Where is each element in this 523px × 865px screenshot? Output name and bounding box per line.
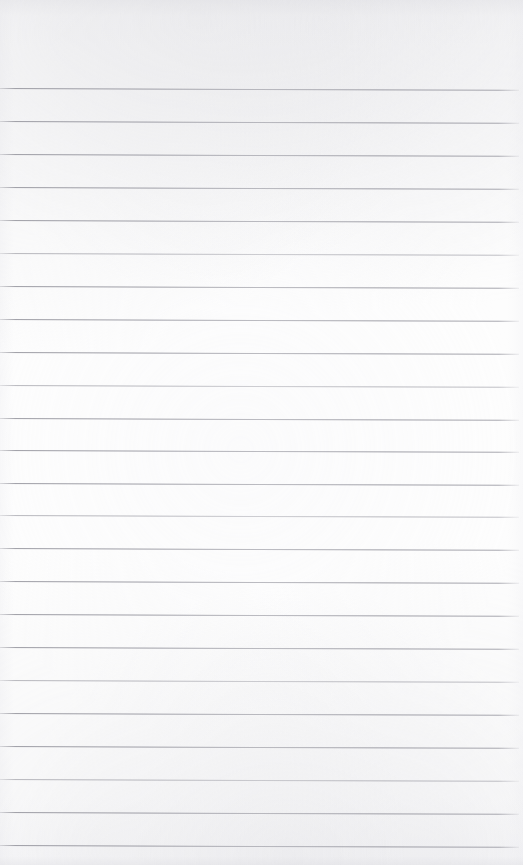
scanned-notebook-page: [0, 0, 523, 865]
writing-area[interactable]: [0, 88, 519, 858]
